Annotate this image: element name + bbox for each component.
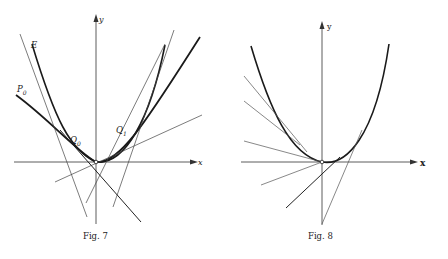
tangent-line (261, 162, 322, 185)
origin-point (320, 160, 324, 164)
origin-point (94, 160, 98, 164)
curve (251, 44, 389, 162)
y-axis-arrow-icon (320, 21, 325, 29)
y-axis-label: y (98, 15, 104, 24)
tangent-line (322, 130, 362, 224)
point-label-q0: Q0 (70, 135, 81, 147)
x-axis-arrow-icon (410, 160, 418, 165)
x-axis-label: x (198, 158, 203, 167)
curve-e (32, 44, 165, 162)
tangent-line (113, 30, 174, 207)
figure-7: y x E P0 Q0 Q1 Fig. 7 (14, 14, 203, 241)
point-label-e: E (30, 40, 38, 50)
curve-p0 (16, 37, 200, 162)
y-axis-arrow-icon (94, 14, 99, 22)
figure-caption: Fig. 8 (308, 231, 333, 241)
tangent-line (86, 44, 165, 203)
x-axis-arrow-icon (190, 160, 198, 165)
tangent-line (244, 141, 322, 162)
tangent-line (20, 34, 87, 217)
figure-caption: Fig. 7 (83, 231, 108, 241)
point-label-q1: Q1 (116, 125, 127, 137)
x-axis-label: x (420, 158, 426, 168)
figure-8: y x Fig. 8 (241, 21, 426, 241)
tangent-line (244, 76, 307, 152)
y-axis-label: y (326, 22, 332, 31)
point-label-p0: P0 (16, 84, 27, 96)
figures-canvas: y x E P0 Q0 Q1 Fig. 7 y x Fig. 8 (0, 0, 448, 259)
